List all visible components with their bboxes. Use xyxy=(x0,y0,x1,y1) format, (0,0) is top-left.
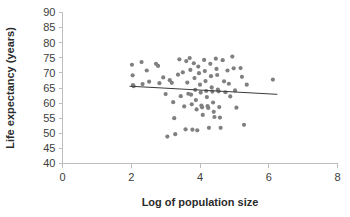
data-point xyxy=(207,126,211,130)
y-tick-label: 90 xyxy=(43,6,55,18)
data-point xyxy=(221,58,225,62)
data-point xyxy=(206,106,210,110)
data-point xyxy=(203,69,207,73)
data-point xyxy=(179,94,183,98)
data-point xyxy=(190,128,194,132)
x-axis: 02468 xyxy=(59,164,340,183)
data-point xyxy=(203,79,207,83)
y-tick-label: 40 xyxy=(43,157,55,169)
data-point xyxy=(209,74,213,78)
chart-canvas: 4045505560657075808590 02468 Log of popu… xyxy=(0,0,350,217)
data-point xyxy=(192,61,196,65)
data-point xyxy=(223,90,227,94)
y-axis-tick-labels: 4045505560657075808590 xyxy=(43,6,55,169)
y-tick-label: 45 xyxy=(43,142,55,154)
data-point xyxy=(208,62,212,66)
data-point xyxy=(139,60,143,64)
data-point xyxy=(238,66,242,70)
data-point xyxy=(214,67,218,71)
data-point xyxy=(201,113,205,117)
data-point xyxy=(130,63,134,67)
x-tick-label: 4 xyxy=(197,171,203,183)
data-point xyxy=(211,100,215,104)
y-tick-label: 85 xyxy=(43,21,55,33)
scatter-plot-figure: 4045505560657075808590 02468 Log of popu… xyxy=(0,0,350,217)
data-point xyxy=(165,135,169,139)
data-point xyxy=(176,73,180,77)
data-point xyxy=(190,102,194,106)
data-point-series xyxy=(130,54,275,138)
data-point xyxy=(181,70,185,74)
data-point xyxy=(156,64,160,68)
y-tick-label: 60 xyxy=(43,97,55,109)
data-point xyxy=(192,76,196,80)
data-point xyxy=(194,98,198,102)
data-point xyxy=(173,132,177,136)
data-point xyxy=(170,81,174,85)
data-point xyxy=(234,106,238,110)
y-axis: 4045505560657075808590 xyxy=(43,6,62,169)
y-axis-title: Life expectancy (years) xyxy=(4,27,16,149)
data-point xyxy=(205,95,209,99)
data-point xyxy=(183,127,187,131)
data-point xyxy=(227,82,231,86)
data-point xyxy=(164,92,168,96)
x-axis-tick-marks xyxy=(63,164,338,168)
data-point xyxy=(212,115,216,119)
x-tick-label: 0 xyxy=(59,171,65,183)
y-tick-label: 70 xyxy=(43,67,55,79)
data-point xyxy=(222,79,226,83)
data-point xyxy=(157,81,161,85)
data-point xyxy=(145,68,149,72)
data-point xyxy=(202,58,206,62)
y-axis-tick-marks xyxy=(59,13,63,164)
y-tick-label: 65 xyxy=(43,82,55,94)
y-tick-label: 50 xyxy=(43,127,55,139)
data-point xyxy=(230,54,234,58)
data-point xyxy=(271,77,275,81)
y-tick-label: 55 xyxy=(43,112,55,124)
y-tick-label: 80 xyxy=(43,37,55,49)
data-point xyxy=(184,59,188,63)
data-point xyxy=(215,73,219,77)
data-point xyxy=(189,93,193,97)
data-point xyxy=(210,90,214,94)
data-point xyxy=(171,100,175,104)
data-point xyxy=(188,56,192,60)
data-point xyxy=(240,75,244,79)
data-point xyxy=(172,116,176,120)
data-point xyxy=(177,57,181,61)
data-point xyxy=(197,71,201,75)
data-point xyxy=(225,68,229,72)
x-tick-label: 2 xyxy=(128,171,134,183)
data-point xyxy=(232,66,236,70)
data-point xyxy=(185,80,189,84)
data-point xyxy=(196,64,200,68)
data-point xyxy=(228,94,232,98)
x-tick-label: 6 xyxy=(266,171,272,183)
data-point xyxy=(214,57,218,61)
data-point xyxy=(204,89,208,93)
trend-line xyxy=(130,86,278,94)
data-point xyxy=(188,68,192,72)
data-point xyxy=(194,107,198,111)
data-point xyxy=(219,126,223,130)
data-point xyxy=(198,83,202,87)
x-tick-label: 8 xyxy=(334,171,340,183)
y-tick-label: 75 xyxy=(43,52,55,64)
x-axis-tick-labels: 02468 xyxy=(59,171,340,183)
data-point xyxy=(242,123,246,127)
data-point xyxy=(199,90,203,94)
data-point xyxy=(140,82,144,86)
data-point xyxy=(217,105,221,109)
data-point xyxy=(200,105,204,109)
data-point xyxy=(245,83,249,87)
data-point xyxy=(131,73,135,77)
data-point xyxy=(161,75,165,79)
data-point xyxy=(147,80,151,84)
x-axis-title: Log of population size xyxy=(142,196,259,208)
data-point xyxy=(195,128,199,132)
data-point xyxy=(218,115,222,119)
data-point xyxy=(212,110,216,114)
data-point xyxy=(182,104,186,108)
